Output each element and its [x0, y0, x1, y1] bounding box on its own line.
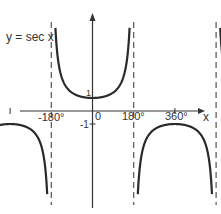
chart-canvas: y = sec x x -180° 0 180° 360° 1 -1	[0, 0, 221, 214]
y-tick-label-neg1: -1	[80, 119, 89, 130]
y-axis-arrow-icon	[90, 13, 96, 21]
asymptote-lines	[0, 22, 221, 205]
y-tick-label-1: 1	[86, 88, 91, 98]
sec-branch-branch_mid_down	[138, 124, 212, 194]
x-axis-label: x	[203, 110, 209, 124]
sec-branch-branch_right_up	[220, 28, 221, 98]
tick-label-180: 180°	[122, 110, 145, 122]
chart-title: y = sec x	[6, 30, 54, 44]
tick-label-0: 0	[95, 110, 101, 122]
tick-label-360: 360°	[165, 110, 188, 122]
sec-chart: y = sec x x -180° 0 180° 360° 1 -1	[0, 0, 221, 214]
sec-branch-branch_left_down	[0, 124, 47, 194]
tick-label-neg180: -180°	[38, 111, 64, 123]
labels: y = sec x x -180° 0 180° 360° 1 -1	[6, 30, 209, 130]
